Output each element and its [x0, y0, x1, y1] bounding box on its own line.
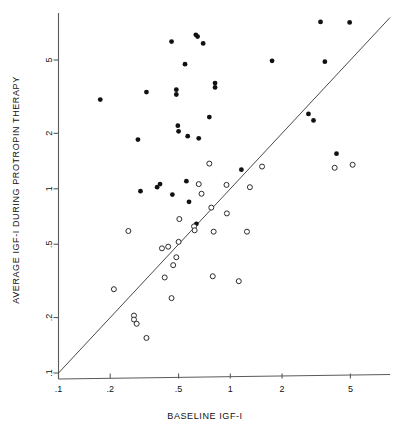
- data-point-filled: [311, 118, 316, 123]
- data-point-filled: [318, 20, 323, 25]
- data-points-group: [98, 20, 355, 341]
- data-point-filled: [213, 85, 218, 90]
- data-point-filled: [196, 136, 201, 141]
- data-point-filled: [334, 151, 339, 156]
- data-point-filled: [158, 182, 163, 187]
- data-point-open: [247, 185, 252, 190]
- y-tick-label: .2: [44, 314, 54, 322]
- x-tick-label: 1: [228, 384, 233, 394]
- x-tick-label: .1: [55, 384, 63, 394]
- data-point-filled: [185, 134, 190, 139]
- data-point-filled: [306, 111, 311, 116]
- y-tick-label: 2: [44, 131, 54, 136]
- data-point-filled: [322, 59, 327, 64]
- data-point-open: [177, 217, 182, 222]
- data-point-filled: [144, 90, 149, 95]
- data-point-open: [236, 279, 241, 284]
- y-tick-label: 1: [44, 186, 54, 191]
- data-point-open: [134, 321, 139, 326]
- data-point-filled: [175, 123, 180, 128]
- data-point-open: [176, 239, 181, 244]
- data-point-open: [224, 182, 229, 187]
- data-point-filled: [239, 167, 244, 172]
- data-point-filled: [174, 87, 179, 92]
- scatter-plot-figure: .1.2.5125.1.2.5125 BASELINE IGF-I AVERAG…: [0, 0, 394, 441]
- y-tick-label: .1: [44, 369, 54, 377]
- data-point-open: [126, 229, 131, 234]
- data-point-open: [166, 244, 171, 249]
- data-point-filled: [136, 137, 141, 142]
- data-point-open: [192, 228, 197, 233]
- data-point-open: [169, 296, 174, 301]
- data-point-open: [224, 211, 229, 216]
- data-point-open: [260, 164, 265, 169]
- x-tick-label: 5: [348, 384, 353, 394]
- y-tick-label: .5: [44, 240, 54, 248]
- x-axis-line: [59, 375, 391, 380]
- data-point-open: [159, 246, 164, 251]
- x-axis-title: BASELINE IGF-I: [167, 411, 242, 421]
- data-point-filled: [183, 62, 188, 67]
- data-point-filled: [270, 58, 275, 63]
- data-point-filled: [201, 41, 206, 46]
- data-point-filled: [347, 20, 352, 25]
- data-point-open: [211, 229, 216, 234]
- data-point-open: [199, 191, 204, 196]
- data-point-filled: [170, 192, 175, 197]
- data-point-filled: [207, 115, 212, 120]
- x-tick-label: .5: [175, 384, 183, 394]
- identity-line-group: [59, 18, 391, 373]
- data-point-filled: [187, 199, 192, 204]
- y-tick-label: 5: [44, 58, 54, 63]
- data-point-open: [171, 263, 176, 268]
- data-point-filled: [169, 39, 174, 44]
- data-point-open: [207, 161, 212, 166]
- data-point-open: [332, 165, 337, 170]
- y-axis-title: AVERAGE IGF-I DURING PROTROPIN THERAPY: [11, 76, 21, 304]
- data-point-open: [144, 335, 149, 340]
- data-point-filled: [98, 97, 103, 102]
- data-point-filled: [174, 92, 179, 97]
- series-open-circles: [111, 161, 355, 340]
- data-point-open: [162, 275, 167, 280]
- data-point-filled: [138, 189, 143, 194]
- data-point-filled: [176, 129, 181, 134]
- plot-canvas: .1.2.5125.1.2.5125 BASELINE IGF-I AVERAG…: [0, 0, 394, 441]
- data-point-filled: [195, 34, 200, 39]
- identity-line-annotation: [59, 18, 391, 373]
- data-point-open: [209, 205, 214, 210]
- data-point-open: [111, 287, 116, 292]
- axis-tick-labels-group: .1.2.5125.1.2.5125: [44, 58, 353, 394]
- x-tick-label: 2: [280, 384, 285, 394]
- data-point-filled: [213, 81, 218, 86]
- data-point-open: [244, 229, 249, 234]
- data-point-open: [196, 182, 201, 187]
- data-point-open: [210, 274, 215, 279]
- x-tick-label: .2: [106, 384, 114, 394]
- data-point-filled: [184, 179, 189, 184]
- data-point-open: [350, 162, 355, 167]
- data-point-open: [174, 255, 179, 260]
